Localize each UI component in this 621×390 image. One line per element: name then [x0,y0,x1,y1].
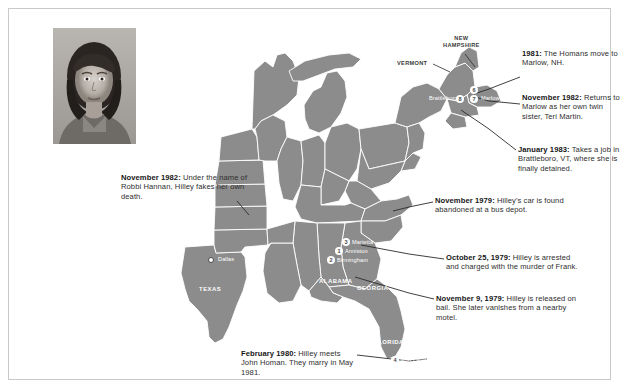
annotation-date: February 1980: [241,349,296,358]
place-label-brattleboro: Brattleboro [429,95,458,101]
annotation-date: 1981: [522,49,542,58]
annotation-jan-1983-brattleboro: January 1983: Takes a job in Brattleboro… [518,145,621,173]
state-label-florida: FLORIDA [374,339,404,345]
marker-anniston: 1 [335,247,343,255]
annotation-nov-1979-car: November 1979: Hilley's car is found aba… [435,196,565,215]
annotation-date: October 25, 1979: [446,253,511,262]
annotation-feb-1980-homan: February 1980: Hilley meets John Homan. … [241,349,359,377]
place-label-marlow: Marlow [481,95,500,101]
figure-frame: Dallas 3 Marietta 1 Anniston 2 Birmingha… [8,8,611,380]
portrait-photo-image [53,28,136,144]
marker-birmingham: 2 [327,256,335,264]
state-label-georgia: GEORGIA [357,285,389,291]
state-label-vermont: VERMONT [397,60,427,67]
state-label-vermont-text: VERMONT [397,60,427,67]
marker-marlow-6: 6 [470,86,478,94]
state-label-alabama: ALABAMA [319,278,353,284]
state-label-new-hampshire: NEW HAMPSHIRE [443,35,480,49]
annotation-nov-9-1979-bail: November 9, 1979: Hilley is released on … [436,294,581,322]
marker-marietta: 3 [342,238,350,246]
state-label-new-hampshire-line2: HAMPSHIRE [443,42,480,49]
annotation-1981-marlow: 1981: The Homans move to Marlow, NH. [522,49,621,68]
marker-dallas [208,257,214,263]
annotation-date: November 1982: [522,93,582,102]
annotation-date: November 1982: [121,173,181,182]
place-label-birmingham: Birmingham [337,257,368,263]
state-label-new-hampshire-line1: NEW [443,35,480,42]
portrait-photo [53,28,136,144]
annotation-date: January 1983: [518,145,570,154]
place-label-anniston: Anniston [345,248,368,254]
annotation-date: November 9, 1979: [436,294,504,303]
annotation-oct-25-1979-arrest: October 25, 1979: Hilley is arrested and… [446,253,582,272]
marker-marlow-7: 7 [470,95,478,103]
place-label-marietta: Marietta [352,239,373,245]
place-label-dallas: Dallas [218,256,234,262]
place-label-fort-lauderdale: Fort Lauderdale [401,357,442,363]
state-label-texas: TEXAS [199,286,221,292]
marker-fort-lauderdale: 4 [391,356,399,364]
annotation-date: November 1979: [435,196,495,205]
annotation-nov-1982-twin: November 1982: Returns to Marlow as her … [522,93,620,121]
annotation-nov-1982-death: November 1982: Under the name of Robbi H… [121,173,256,201]
